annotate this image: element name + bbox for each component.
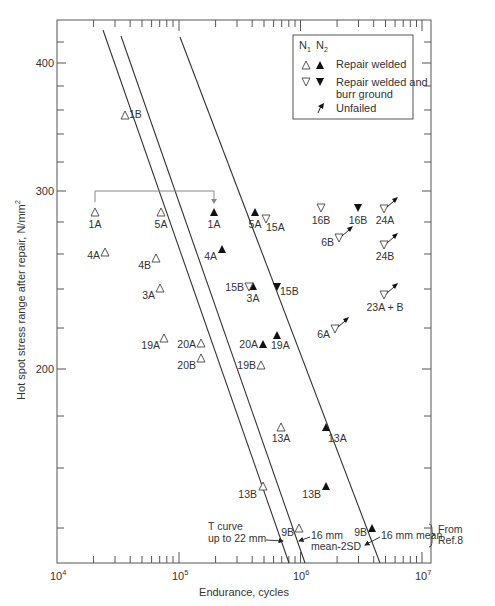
marker-6B — [335, 234, 343, 242]
annotation-ref8: Ref.8 — [438, 534, 463, 546]
label-20B: 20B — [177, 359, 196, 371]
legend: N1 N2 Repair welded Repair welded and bu… — [293, 35, 428, 119]
marker-19B — [257, 361, 265, 369]
x-tick-1e6: 106 — [293, 568, 309, 582]
svg-text:106: 106 — [293, 568, 309, 582]
n1-repair-welded-markers — [91, 111, 303, 532]
marker-24A — [380, 205, 388, 213]
marker-20A-n2 — [259, 340, 267, 348]
unfailed-arrow-icon-23AB — [387, 283, 398, 293]
label-15B-n1: 15B — [225, 281, 244, 293]
legend-label-burr-ground-1: Repair welded and — [336, 76, 428, 88]
legend-label-repair-welded: Repair welded — [336, 58, 406, 70]
unfailed-arrow-icon-24A — [387, 197, 398, 207]
point-labels: 1B 1A 5A 1A 5A 15A 16B 16B 24A 4A 4B 4A … — [87, 108, 403, 538]
label-19B: 19B — [237, 359, 256, 371]
marker-20A-n1 — [197, 339, 205, 347]
label-4A-n2: 4A — [204, 250, 217, 262]
label-20A-n2: 20A — [239, 338, 258, 350]
label-15B-n2: 15B — [280, 285, 299, 297]
marker-19A-n2 — [273, 331, 281, 339]
label-13A-n1: 13A — [272, 432, 291, 444]
label-1B: 1B — [129, 108, 142, 120]
label-19A-n2: 19A — [271, 339, 290, 351]
label-24B: 24B — [376, 250, 395, 262]
unfailed-arrow-icon-24B — [387, 233, 398, 243]
marker-6A — [331, 325, 339, 333]
x-tick-1e5: 105 — [172, 568, 188, 582]
label-13A-n2: 13A — [328, 432, 347, 444]
label-3A-n2: 3A — [247, 292, 260, 304]
curve-annotations: T curve up to 22 mm 16 mm mean-2SD 16 mm… — [208, 520, 463, 552]
label-6B: 6B — [321, 236, 334, 248]
y-tick-200: 200 — [36, 363, 54, 375]
marker-13B-n1 — [259, 482, 267, 490]
label-5A-n2: 5A — [249, 218, 262, 230]
y-axis-title: Hot spot stress range after repair, N/mm… — [13, 200, 27, 400]
annotation-mean-2sd-2: mean-2SD — [311, 540, 362, 552]
marker-13B-n2 — [322, 482, 330, 490]
marker-19A-n1 — [160, 334, 168, 342]
label-4A-n1: 4A — [87, 249, 100, 261]
marker-3A-n1 — [156, 284, 164, 292]
marker-24B — [380, 241, 388, 249]
svg-text:105: 105 — [172, 568, 188, 582]
n2-repair-welded-markers — [210, 208, 376, 532]
marker-9B-n2 — [368, 524, 376, 532]
unfailed-arrow-icon-6A — [338, 317, 349, 327]
x-axis-ticks — [94, 552, 422, 563]
marker-5A-n2 — [251, 208, 259, 216]
marker-13A-n1 — [277, 423, 285, 431]
y-tick-400: 400 — [36, 57, 54, 69]
label-6A: 6A — [317, 328, 330, 340]
svg-text:104: 104 — [50, 568, 66, 582]
marker-23AB — [380, 291, 388, 299]
x-axis-title: Endurance, cycles — [199, 586, 289, 598]
y-tick-300: 300 — [36, 185, 54, 197]
label-13B-n2: 13B — [302, 488, 321, 500]
label-15A: 15A — [266, 221, 285, 233]
legend-label-burr-ground-2: burr ground — [336, 88, 393, 100]
marker-1A-n1 — [91, 208, 99, 216]
marker-16B-n1 — [317, 204, 325, 212]
label-19A-n1: 19A — [141, 339, 160, 351]
label-4B: 4B — [138, 259, 151, 271]
label-5A-n1: 5A — [155, 218, 168, 230]
legend-label-unfailed: Unfailed — [336, 102, 376, 114]
x-tick-1e4: 104 — [50, 568, 66, 582]
label-13B-n1: 13B — [238, 488, 257, 500]
bracket-arrow-1A — [95, 191, 217, 204]
x-tick-1e7: 107 — [415, 568, 431, 582]
x-axis-top-ticks — [94, 20, 422, 31]
fatigue-chart: 400 300 200 104 105 106 107 Endurance, c… — [0, 0, 495, 606]
annotation-t-curve-1: T curve — [208, 520, 243, 532]
label-24A: 24A — [376, 214, 395, 226]
label-3A-n1: 3A — [142, 289, 155, 301]
svg-text:107: 107 — [415, 568, 431, 582]
label-1A-n1: 1A — [89, 218, 102, 230]
annotation-t-curve-2: up to 22 mm — [208, 532, 267, 544]
marker-16B-n2 — [354, 204, 362, 212]
label-9B-n1: 9B — [281, 526, 294, 538]
unfailed-arrow-icon-6B — [342, 226, 353, 236]
label-23AB: 23A + B — [366, 301, 403, 313]
marker-4A-n2 — [218, 245, 226, 253]
marker-1B — [121, 111, 129, 119]
label-20A-n1: 20A — [177, 338, 196, 350]
marker-1A-n2 — [210, 208, 218, 216]
label-16B-n2: 16B — [349, 214, 368, 226]
label-16B-n1: 16B — [312, 214, 331, 226]
marker-20B — [197, 354, 205, 362]
label-1A-n2: 1A — [208, 218, 221, 230]
marker-9B-n1 — [295, 524, 303, 532]
marker-4A-n1 — [101, 248, 109, 256]
label-9B-n2: 9B — [354, 526, 367, 538]
marker-4B — [152, 254, 160, 262]
marker-5A-n1 — [157, 208, 165, 216]
